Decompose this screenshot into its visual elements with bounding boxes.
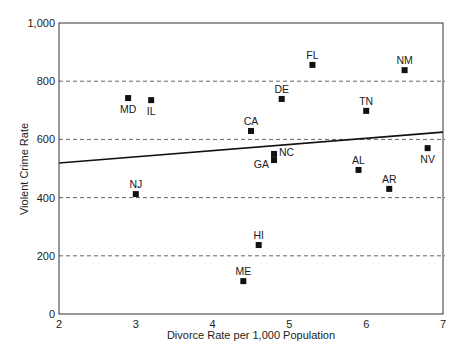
data-point-nm: NM bbox=[396, 54, 412, 73]
square-marker-icon bbox=[240, 278, 246, 284]
regression-line bbox=[59, 132, 443, 163]
y-tick-label: 400 bbox=[37, 192, 55, 204]
square-marker-icon bbox=[279, 96, 285, 102]
data-point-tn: TN bbox=[359, 95, 373, 114]
data-point-nj: NJ bbox=[129, 178, 142, 197]
point-label: AL bbox=[352, 154, 365, 166]
x-tick-label: 2 bbox=[56, 318, 62, 330]
data-point-nc: NC bbox=[271, 146, 295, 158]
point-label: FL bbox=[306, 49, 318, 61]
data-point-ca: CA bbox=[244, 115, 259, 134]
x-axis-label: Divorce Rate per 1,000 Population bbox=[167, 329, 335, 341]
data-point-md: MD bbox=[120, 95, 137, 115]
gridlines bbox=[59, 81, 445, 256]
square-marker-icon bbox=[271, 151, 277, 157]
data-point-ga: GA bbox=[254, 157, 277, 170]
point-label: IL bbox=[147, 105, 156, 117]
point-label: MD bbox=[120, 103, 137, 115]
point-label: GA bbox=[254, 158, 269, 170]
y-tick-label: 800 bbox=[37, 75, 55, 87]
square-marker-icon bbox=[356, 167, 362, 173]
x-tick-label: 3 bbox=[133, 318, 139, 330]
point-label: CA bbox=[244, 115, 259, 127]
y-axis-label: Violent Crime Rate bbox=[18, 123, 30, 215]
square-marker-icon bbox=[248, 128, 254, 134]
square-marker-icon bbox=[271, 157, 277, 163]
square-marker-icon bbox=[402, 67, 408, 73]
square-marker-icon bbox=[148, 97, 154, 103]
point-label: NM bbox=[396, 54, 412, 66]
square-marker-icon bbox=[309, 62, 315, 68]
y-tick-label: 0 bbox=[49, 308, 55, 320]
y-tick-label: 1,000 bbox=[27, 17, 55, 29]
point-label: NV bbox=[420, 153, 435, 165]
point-label: TN bbox=[359, 95, 373, 107]
data-point-ar: AR bbox=[382, 173, 397, 192]
data-point-nv: NV bbox=[420, 145, 435, 165]
x-tick-label: 6 bbox=[363, 318, 369, 330]
square-marker-icon bbox=[363, 108, 369, 114]
x-tick-label: 7 bbox=[440, 318, 446, 330]
y-tick-label: 600 bbox=[37, 133, 55, 145]
point-label: HI bbox=[253, 229, 264, 241]
data-points: MDILNJCADEFLNCGAHIMETNNMALARNV bbox=[120, 49, 435, 284]
data-point-de: DE bbox=[274, 83, 289, 102]
y-axis-ticks: 02004006008001,000 bbox=[27, 17, 55, 320]
point-label: DE bbox=[274, 83, 289, 95]
point-label: NC bbox=[279, 146, 295, 158]
y-tick-label: 200 bbox=[37, 250, 55, 262]
trend-line bbox=[59, 132, 443, 163]
square-marker-icon bbox=[125, 95, 131, 101]
data-point-hi: HI bbox=[253, 229, 264, 248]
data-point-me: ME bbox=[235, 265, 251, 284]
square-marker-icon bbox=[256, 242, 262, 248]
data-point-al: AL bbox=[352, 154, 365, 173]
scatter-chart: 02004006008001,000 234567 MDILNJCADEFLNC… bbox=[0, 0, 462, 360]
point-label: AR bbox=[382, 173, 397, 185]
data-point-il: IL bbox=[147, 97, 156, 117]
square-marker-icon bbox=[425, 145, 431, 151]
point-label: ME bbox=[235, 265, 251, 277]
data-point-fl: FL bbox=[306, 49, 318, 68]
point-label: NJ bbox=[129, 178, 142, 190]
square-marker-icon bbox=[133, 191, 139, 197]
square-marker-icon bbox=[386, 186, 392, 192]
